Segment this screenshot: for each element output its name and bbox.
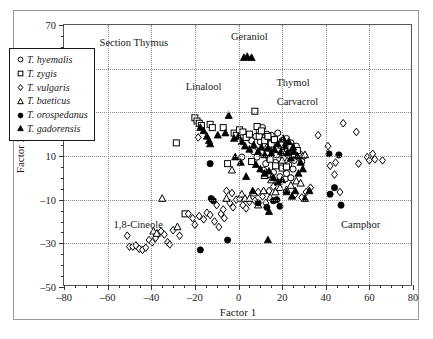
- legend-item-label: T. baeticus: [27, 94, 70, 108]
- legend-item[interactable]: T. gadorensis: [14, 122, 90, 136]
- legend-item[interactable]: T. hyemalis: [14, 53, 90, 67]
- y-tick-label: –30: [40, 238, 56, 249]
- x-tick-label: –40: [143, 292, 159, 303]
- series-t-orospedanus: [197, 151, 344, 253]
- x-tick-label: –80: [56, 292, 72, 303]
- data-point: [210, 198, 216, 204]
- y-tick-minor: [61, 222, 64, 223]
- x-axis-label: Factor 1: [220, 306, 256, 318]
- legend-item[interactable]: T. vulgaris: [14, 81, 90, 95]
- x-tick-label: –20: [187, 292, 203, 303]
- x-tick: [151, 285, 152, 290]
- data-point: [207, 161, 213, 167]
- y-tick-minor: [61, 276, 64, 277]
- x-tick-minor: [86, 285, 87, 288]
- data-point: [124, 232, 130, 240]
- circle-filled-icon: [14, 110, 27, 121]
- legend-item[interactable]: T. baeticus: [14, 94, 90, 108]
- data-point: [224, 187, 230, 195]
- y-tick: [59, 200, 64, 201]
- data-point: [255, 200, 261, 206]
- data-point: [249, 187, 256, 194]
- data-point: [173, 140, 179, 146]
- y-tick-minor: [61, 189, 64, 190]
- legend-item-label: T. orospedanus: [27, 108, 88, 122]
- y-tick-label: –10: [40, 194, 56, 205]
- data-point: [264, 236, 271, 243]
- data-point: [327, 162, 333, 170]
- x-tick-minor: [348, 285, 349, 288]
- data-point: [224, 237, 230, 243]
- x-tick-minor: [402, 285, 403, 288]
- x-tick-minor: [140, 285, 141, 288]
- data-point: [209, 125, 215, 131]
- diamond-open-icon: [14, 82, 27, 93]
- x-tick-minor: [162, 285, 163, 288]
- data-point: [299, 165, 306, 172]
- legend-item[interactable]: T. zygis: [14, 67, 90, 81]
- x-tick-minor: [206, 285, 207, 288]
- x-tick: [282, 285, 283, 290]
- x-tick-minor: [228, 285, 229, 288]
- x-tick-minor: [97, 285, 98, 288]
- x-tick-minor: [217, 285, 218, 288]
- x-tick-minor: [304, 285, 305, 288]
- data-point: [379, 157, 385, 165]
- scatter-plot-figure: Factor 2 Factor 1 –80–60–40–20020406080–…: [0, 0, 433, 339]
- x-tick-minor: [315, 285, 316, 288]
- x-tick-minor: [184, 285, 185, 288]
- data-point: [249, 158, 255, 164]
- data-point: [337, 188, 343, 196]
- data-point: [197, 247, 203, 253]
- gridline-vertical: [326, 25, 327, 285]
- x-tick-minor: [358, 285, 359, 288]
- chart-annotation: 1,8-Cineole: [114, 218, 163, 229]
- y-tick-minor: [61, 232, 64, 233]
- y-tick: [59, 25, 64, 26]
- chart-annotation: Section Thymus: [100, 37, 168, 48]
- data-point: [340, 119, 346, 127]
- data-point: [177, 232, 183, 240]
- data-point: [315, 131, 321, 139]
- data-point: [332, 171, 338, 179]
- gridline-vertical: [195, 25, 196, 285]
- x-tick: [413, 285, 414, 290]
- circle-open-icon: [14, 54, 27, 65]
- x-tick-minor: [337, 285, 338, 288]
- gridline-vertical: [108, 25, 109, 285]
- triangle-filled-icon: [14, 123, 27, 134]
- chart-annotation: Linalool: [186, 81, 222, 92]
- x-tick-minor: [75, 285, 76, 288]
- data-point: [243, 173, 250, 180]
- x-tick: [195, 285, 196, 290]
- chart-annotation: Geraniol: [231, 30, 268, 41]
- gridline-horizontal: [64, 156, 411, 157]
- gridline-vertical: [282, 25, 283, 285]
- legend-item[interactable]: T. orospedanus: [14, 108, 90, 122]
- plot-area: –80–60–40–20020406080–50–30–1010305070Se…: [63, 24, 412, 286]
- data-point: [333, 159, 339, 167]
- x-tick: [369, 285, 370, 290]
- y-tick: [59, 243, 64, 244]
- x-tick: [64, 285, 65, 290]
- gridline-horizontal: [64, 243, 411, 244]
- x-tick-minor: [249, 285, 250, 288]
- x-tick-minor: [391, 285, 392, 288]
- data-point: [214, 131, 221, 138]
- y-tick-minor: [61, 167, 64, 168]
- legend-item-label: T. gadorensis: [27, 122, 80, 136]
- x-tick-minor: [380, 285, 381, 288]
- gridline-horizontal: [64, 200, 411, 201]
- x-tick-minor: [293, 285, 294, 288]
- y-tick-label: –50: [40, 282, 56, 293]
- chart-annotation: Camphor: [341, 218, 380, 229]
- data-point: [225, 161, 231, 167]
- triangle-open-icon: [14, 96, 27, 107]
- data-point: [265, 133, 271, 139]
- data-point: [327, 191, 333, 197]
- data-point: [288, 175, 294, 181]
- data-point: [229, 189, 235, 197]
- data-point: [331, 185, 337, 191]
- data-point: [356, 160, 362, 168]
- x-tick-minor: [173, 285, 174, 288]
